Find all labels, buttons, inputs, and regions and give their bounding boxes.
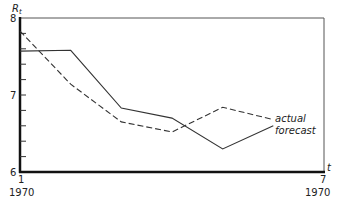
- x-tick-end-year: 1970: [305, 187, 330, 198]
- legend-forecast: forecast: [275, 125, 317, 136]
- line-chart: Rt 8 7 6 1 1970 7 1970 t actual forecast: [0, 0, 341, 204]
- x-tick-start-year: 1970: [9, 187, 34, 198]
- y-tick-6: 6: [10, 167, 16, 178]
- x-axis-label: t: [327, 162, 332, 173]
- legend-actual: actual: [275, 113, 306, 124]
- forecast-series-line: [20, 50, 273, 149]
- x-tick-start: 1: [18, 174, 24, 185]
- y-tick-8: 8: [10, 13, 16, 24]
- y-tick-7: 7: [10, 90, 16, 101]
- actual-series-line: [20, 31, 273, 132]
- x-tick-end: 7: [320, 174, 326, 185]
